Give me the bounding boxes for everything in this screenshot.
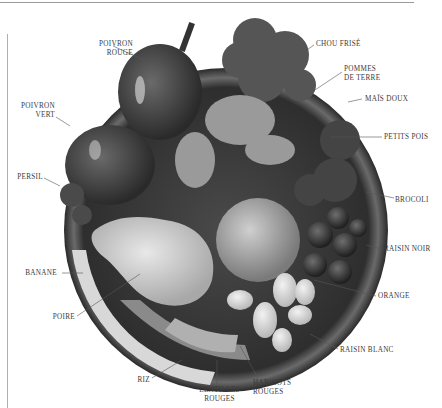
leader-mais-doux — [348, 99, 362, 102]
label-poivron-vert: POIVRON VERT — [0, 102, 55, 119]
label-orange: ORANGE — [378, 292, 423, 301]
label-riz: RIZ — [120, 376, 150, 385]
label-chou-frise: CHOU FRISÉ — [316, 40, 376, 49]
label-pommes-de-terre: POMMES DE TERRE — [344, 65, 394, 82]
label-raisin-noir: RAISIN NOIR — [384, 245, 442, 254]
label-poivron-rouge: POIVRON ROUGE — [78, 40, 133, 57]
label-haricots-rouges: HARICOTS ROUGES — [253, 379, 303, 396]
leader-persil — [44, 178, 60, 186]
label-persil: PERSIL — [0, 173, 43, 182]
label-lentilles-rouges: LENTILLES ROUGES — [192, 386, 247, 403]
label-mais-doux: MAÏS DOUX — [365, 95, 425, 104]
label-raisin-blanc: RAISIN BLANC — [340, 346, 405, 355]
orange — [216, 198, 300, 282]
label-brocoli: BROCOLI — [395, 196, 440, 205]
label-petits-pois: PETITS POIS — [384, 133, 442, 142]
leader-poivron-vert — [56, 117, 70, 126]
label-banane: BANANE — [0, 269, 57, 278]
label-poire: POIRE — [0, 313, 75, 322]
